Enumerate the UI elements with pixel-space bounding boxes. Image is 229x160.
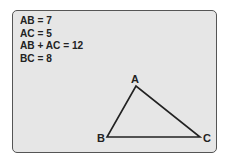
- triangle-abc: [107, 86, 200, 137]
- triangle-figure: A B C: [0, 0, 229, 160]
- vertex-label-a: A: [131, 73, 139, 85]
- vertex-label-c: C: [203, 132, 211, 144]
- vertex-label-b: B: [97, 132, 105, 144]
